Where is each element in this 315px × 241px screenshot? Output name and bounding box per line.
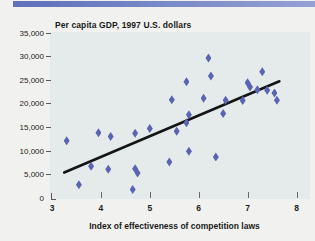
x-tick-mark [150,192,151,198]
origin-tick [51,193,56,200]
x-tick-mark [101,192,102,198]
x-tick-label: 4 [91,203,111,213]
y-tick-mark [46,151,51,152]
y-tick-label: 35,000 [4,29,44,38]
y-tick-label: 0 [4,194,44,203]
y-tick-mark [46,127,51,128]
y-tick-label: 5,000 [4,170,44,179]
x-tick-mark [199,192,200,198]
y-tick-label: 30,000 [4,52,44,61]
x-tick-mark [297,192,298,198]
y-tick-mark [46,103,51,104]
x-tick-label: 5 [140,203,160,213]
x-tick-label: 7 [238,203,258,213]
y-tick-label: 25,000 [4,76,44,85]
y-tick-mark [46,56,51,57]
x-tick-label: 6 [189,203,209,213]
chart-title: Per capita GDP, 1997 U.S. dollars [55,20,191,30]
x-axis-title: Index of effectiveness of competition la… [52,221,297,231]
y-tick-mark [46,33,51,34]
x-tick-label: 3 [42,203,62,213]
x-tick-mark [248,192,249,198]
chart-figure: Per capita GDP, 1997 U.S. dollars Index … [0,0,315,241]
top-accent-bar [13,1,315,7]
x-tick-label: 8 [287,203,307,213]
plot-area [50,32,310,199]
y-tick-label: 10,000 [4,147,44,156]
y-tick-label: 20,000 [4,99,44,108]
y-tick-mark [46,80,51,81]
y-tick-label: 15,000 [4,123,44,132]
y-tick-mark [46,174,51,175]
